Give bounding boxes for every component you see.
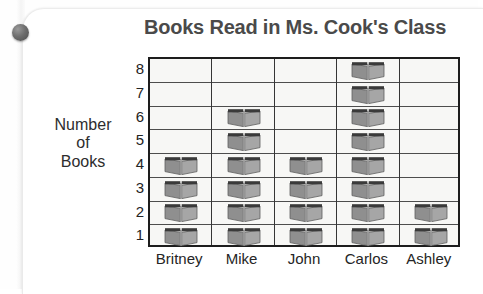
- book-icon: [351, 156, 385, 176]
- y-tick-6: 6: [126, 105, 144, 129]
- y-axis-label-line-3: Books: [44, 153, 122, 171]
- book-icon: [289, 156, 323, 176]
- x-axis-tick-labels: BritneyMikeJohnCarlosAshley: [148, 250, 460, 274]
- book-icon: [351, 132, 385, 152]
- pictograph-marks: [150, 59, 458, 245]
- book-icon: [289, 180, 323, 200]
- book-icon: [227, 108, 261, 128]
- book-icon: [289, 227, 323, 247]
- book-icon: [227, 227, 261, 247]
- y-tick-5: 5: [126, 128, 144, 152]
- x-tick-carlos: Carlos: [335, 250, 397, 267]
- book-icon: [351, 108, 385, 128]
- chart-plot-area: [148, 57, 460, 247]
- book-icon: [164, 180, 198, 200]
- book-icon: [351, 227, 385, 247]
- book-icon: [164, 203, 198, 223]
- y-tick-7: 7: [126, 81, 144, 105]
- book-icon: [227, 180, 261, 200]
- y-axis-tick-labels: 87654321: [126, 57, 144, 247]
- binder-pin-icon: [12, 24, 29, 41]
- book-icon: [227, 156, 261, 176]
- book-icon: [351, 61, 385, 81]
- book-icon: [351, 180, 385, 200]
- book-icon: [414, 203, 448, 223]
- book-icon: [289, 203, 323, 223]
- x-tick-mike: Mike: [210, 250, 272, 267]
- y-tick-1: 1: [126, 223, 144, 247]
- y-tick-4: 4: [126, 152, 144, 176]
- book-icon: [164, 156, 198, 176]
- y-axis-label-line-2: of: [44, 134, 122, 152]
- book-icon: [227, 203, 261, 223]
- y-tick-2: 2: [126, 200, 144, 224]
- y-axis-label: Number of Books: [44, 116, 122, 171]
- book-icon: [414, 227, 448, 247]
- x-tick-britney: Britney: [148, 250, 210, 267]
- book-icon: [351, 203, 385, 223]
- y-axis-label-line-1: Number: [44, 116, 122, 134]
- y-tick-3: 3: [126, 176, 144, 200]
- book-icon: [164, 227, 198, 247]
- x-tick-ashley: Ashley: [398, 250, 460, 267]
- chart-title: Books Read in Ms. Cook's Class: [120, 16, 470, 39]
- book-icon: [351, 85, 385, 105]
- book-icon: [227, 132, 261, 152]
- x-tick-john: John: [273, 250, 335, 267]
- y-tick-8: 8: [126, 57, 144, 81]
